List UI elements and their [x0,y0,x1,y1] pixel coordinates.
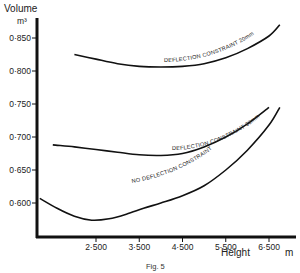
x-tick-label: 4·500 [172,242,194,252]
y-axis-unit: m³ [17,16,27,26]
curve-label-30mm: DEFLECTION CONSTRAINT 30mm [172,113,261,151]
x-axis-title: Height [221,247,250,258]
x-tick-label: 3·500 [128,242,150,252]
x-ticks: 2·5003·5004·5005·5006·500 [85,237,280,252]
y-tick-label: 0·850 [9,33,31,43]
y-tick-label: 0·600 [9,198,31,208]
plot-area: 0·6000·6500·7000·7500·8000·850 2·5003·50… [9,18,296,252]
y-tick-label: 0·650 [9,165,31,175]
y-tick-label: 0·700 [9,132,31,142]
y-tick-label: 0·750 [9,99,31,109]
figure-caption: Fig. 5 [146,262,165,271]
x-tick-label: 6·500 [258,242,280,252]
y-axis-title: Volume [4,3,38,14]
y-ticks: 0·6000·6500·7000·7500·8000·850 [9,33,37,208]
y-tick-label: 0·800 [9,66,31,76]
x-tick-label: 2·500 [85,242,107,252]
curve-label-20mm: DEFLECTION CONSTRAINT 20mm [164,30,255,63]
chart: 0·6000·6500·7000·7500·8000·850 2·5003·50… [0,0,300,273]
x-axis-unit: m [285,247,293,258]
